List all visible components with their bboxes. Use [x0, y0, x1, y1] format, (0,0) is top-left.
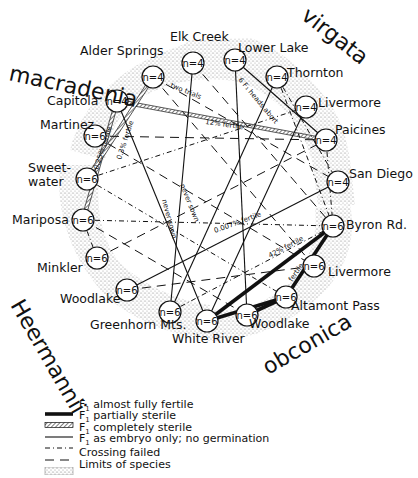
node-label: Mariposa — [12, 212, 69, 227]
chromosome-count: n=6 — [84, 131, 105, 142]
legend-swatch-partial — [44, 414, 74, 422]
node-label: Paicines — [335, 122, 386, 137]
node-label: Sweet- — [28, 160, 71, 175]
legend-swatch-fertile — [44, 403, 74, 411]
node-label: Alder Springs — [80, 43, 164, 58]
annotation-never-sown-2: never sown — [160, 198, 178, 239]
chromosome-count: n=4 — [142, 72, 163, 83]
chromosome-count: n=4 — [224, 55, 245, 66]
node-sweetwater: n=6Sweet-water — [28, 160, 98, 190]
chromosome-count: n=6 — [86, 253, 107, 264]
node-livermore-obconica: n=6Livermore — [303, 255, 391, 279]
node-label: Elk Creek — [170, 29, 230, 44]
node-altamont-pass: n=6Altamont Pass — [275, 286, 380, 313]
species-label-virgata: virgata — [297, 2, 373, 69]
chromosome-count: n=6 — [196, 316, 217, 327]
node-label: water — [28, 174, 64, 189]
legend-item-limits: Limits of species — [44, 459, 269, 471]
node-label: Livermore — [328, 264, 391, 279]
node-label: Minkler — [37, 260, 84, 275]
chromosome-count: n=4 — [327, 177, 348, 188]
node-label: Martinez — [40, 117, 95, 132]
chromosome-count: n=4 — [266, 72, 287, 83]
chromosome-count: n=4 — [315, 135, 336, 146]
node-label: White River — [172, 331, 246, 346]
cross-line-mariposa-byron-rd — [83, 220, 333, 226]
node-label: Woodlake — [249, 316, 310, 331]
chromosome-count: n=4 — [295, 102, 316, 113]
node-label: Livermore — [318, 95, 381, 110]
chromosome-count: n=6 — [72, 215, 93, 226]
annotation-two-trials: two trials — [169, 81, 202, 101]
legend-swatch-sterile — [44, 426, 74, 434]
chromosome-count: n=6 — [159, 307, 180, 318]
node-byron-rd: n=6Byron Rd. — [322, 215, 407, 237]
node-label: San Diego — [349, 166, 413, 181]
legend-swatch-embryo — [44, 437, 74, 445]
legend-swatch-crossfail — [44, 449, 74, 457]
node-mariposa: n=6Mariposa — [12, 209, 94, 231]
legend-swatch-limits — [44, 460, 74, 468]
chromosome-count: n=4 — [182, 58, 203, 69]
annotation-never-sown-1: never sown — [178, 183, 201, 223]
legend: F1 almost fully fertileF1 partially ster… — [44, 401, 269, 470]
node-label: Greenhorn Mts. — [90, 317, 186, 332]
node-label: Lower Lake — [238, 40, 309, 55]
node-label: Woodlake — [60, 291, 121, 306]
node-label: Thornton — [286, 65, 344, 80]
chromosome-count: n=6 — [76, 174, 97, 185]
chromosome-count: n=6 — [303, 261, 324, 272]
node-label: Byron Rd. — [346, 217, 407, 232]
annotation-42pct: 42% fertile — [267, 235, 305, 260]
node-livermore-virgata: n=4Livermore — [295, 95, 381, 118]
chromosome-count: n=6 — [322, 221, 343, 232]
legend-label: Crossing failed — [79, 447, 160, 458]
legend-label: Limits of species — [79, 459, 171, 470]
node-label: Altamont Pass — [291, 298, 380, 313]
